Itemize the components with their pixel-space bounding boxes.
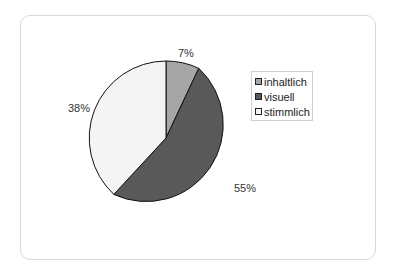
- swatch-stimmlich: [255, 108, 262, 115]
- legend-label: stimmlich: [264, 106, 310, 118]
- label-inhaltlich: 7%: [178, 47, 194, 59]
- swatch-visuell: [255, 93, 262, 100]
- legend-item-inhaltlich: inhaltlich: [255, 74, 312, 89]
- legend: inhaltlich visuell stimmlich: [251, 71, 313, 121]
- legend-label: inhaltlich: [264, 76, 307, 88]
- legend-label: visuell: [264, 91, 295, 103]
- pie-chart: 7% 55% 38%: [0, 0, 395, 276]
- legend-item-stimmlich: stimmlich: [255, 104, 312, 119]
- label-stimmlich: 38%: [68, 102, 90, 114]
- legend-item-visuell: visuell: [255, 89, 312, 104]
- swatch-inhaltlich: [255, 78, 262, 85]
- label-visuell: 55%: [234, 182, 256, 194]
